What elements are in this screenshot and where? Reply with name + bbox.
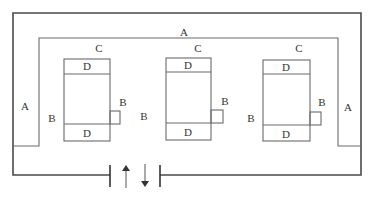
label-left-b: B [48, 112, 55, 124]
diagram-canvas: A A A B B B C D D B C D D B C D D B [0, 0, 371, 199]
unit-3-label-d-bottom: D [282, 128, 290, 140]
unit-1 [64, 59, 120, 141]
label-right-a: A [344, 101, 352, 113]
unit-2-label-d-bottom: D [184, 126, 192, 138]
unit-2-label-b: B [221, 95, 228, 107]
unit-1-label-b: B [119, 96, 126, 108]
unit-3-label-d-top: D [282, 61, 290, 73]
unit-1-label-d-bottom: D [83, 127, 91, 139]
diagram: A A A B B B C D D B C D D B C D D B [0, 0, 371, 199]
unit-1-label-c: C [95, 42, 102, 54]
label-mid-b2: B [247, 112, 254, 124]
unit-3-label-b: B [318, 96, 325, 108]
unit-2 [166, 58, 223, 140]
unit-3-label-c: C [295, 42, 302, 54]
label-top-a: A [180, 26, 188, 38]
label-left-a: A [21, 100, 29, 112]
unit-1-label-d-top: D [83, 60, 91, 72]
unit-3 [263, 60, 321, 141]
unit-2-label-c: C [194, 42, 201, 54]
unit-2-label-d-top: D [184, 59, 192, 71]
label-mid-b1: B [140, 110, 147, 122]
